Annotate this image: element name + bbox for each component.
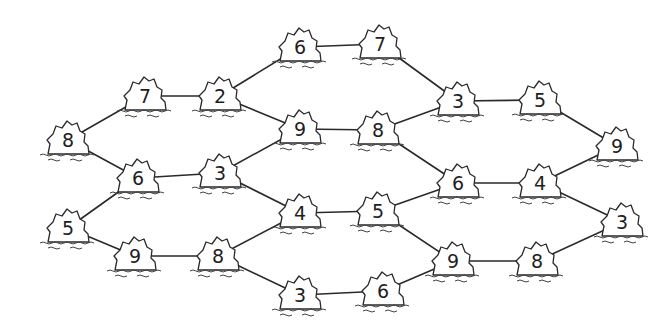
island-number: 3 xyxy=(214,162,226,184)
island-number: 5 xyxy=(372,200,384,222)
water-icon xyxy=(280,314,314,316)
island: 3 xyxy=(430,82,484,122)
water-icon xyxy=(280,66,314,68)
island: 8 xyxy=(509,242,563,282)
island: 6 xyxy=(272,28,326,68)
island-number: 2 xyxy=(214,85,226,107)
island: 5 xyxy=(350,192,404,232)
water-icon xyxy=(115,275,149,277)
water-icon xyxy=(438,202,472,204)
water-icon xyxy=(125,115,159,117)
water-icon xyxy=(280,148,314,150)
island: 8 xyxy=(190,237,244,277)
island-number: 6 xyxy=(132,167,144,189)
water-icon xyxy=(363,310,397,312)
water-icon xyxy=(358,149,392,151)
island-number: 7 xyxy=(139,85,151,107)
island: 3 xyxy=(192,154,246,194)
island: 3 xyxy=(272,276,326,316)
island-number: 7 xyxy=(374,33,386,55)
island-number: 8 xyxy=(62,129,74,151)
island-number: 9 xyxy=(294,118,306,140)
water-icon xyxy=(517,280,551,282)
island-number: 9 xyxy=(447,250,459,272)
water-icon xyxy=(433,280,467,282)
island: 4 xyxy=(272,194,326,234)
island-number: 4 xyxy=(294,202,306,224)
island-number: 9 xyxy=(129,245,141,267)
island: 4 xyxy=(512,164,566,204)
island-number: 3 xyxy=(294,284,306,306)
island-number: 4 xyxy=(534,172,546,194)
island: 5 xyxy=(512,81,566,121)
island-number: 3 xyxy=(452,90,464,112)
island: 7 xyxy=(352,25,406,65)
island-number: 8 xyxy=(372,119,384,141)
water-icon xyxy=(200,115,234,117)
island-number: 6 xyxy=(452,172,464,194)
island: 3 xyxy=(594,203,648,243)
island-number: 5 xyxy=(62,217,74,239)
islands-layer: 677235898963644553989836 xyxy=(40,25,648,316)
island-number: 3 xyxy=(616,211,628,233)
water-icon xyxy=(520,202,554,204)
water-icon xyxy=(597,165,631,167)
water-icon xyxy=(48,159,82,161)
island: 2 xyxy=(192,77,246,117)
water-icon xyxy=(118,197,152,199)
water-icon xyxy=(602,241,636,243)
island: 9 xyxy=(107,237,161,277)
water-icon xyxy=(280,232,314,234)
water-icon xyxy=(48,247,82,249)
island-number: 5 xyxy=(534,89,546,111)
island-number: 8 xyxy=(531,250,543,272)
island-number: 8 xyxy=(212,245,224,267)
island-number: 6 xyxy=(294,36,306,58)
island: 7 xyxy=(117,77,171,117)
island-number: 9 xyxy=(611,135,623,157)
island-number: 6 xyxy=(377,280,389,302)
island: 9 xyxy=(589,127,643,167)
water-icon xyxy=(198,275,232,277)
water-icon xyxy=(358,230,392,232)
water-icon xyxy=(520,119,554,121)
island: 8 xyxy=(40,121,94,161)
island-puzzle-diagram: 677235898963644553989836 xyxy=(0,0,671,330)
island: 8 xyxy=(350,111,404,151)
water-icon xyxy=(438,120,472,122)
water-icon xyxy=(360,63,394,65)
water-icon xyxy=(200,192,234,194)
island: 6 xyxy=(355,272,409,312)
